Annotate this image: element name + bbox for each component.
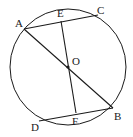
label-B: B [114,110,121,122]
center-point-O [66,65,69,68]
geometry-diagram: A E C O B F D [0,0,133,137]
label-O: O [72,55,80,67]
label-E: E [57,7,64,19]
label-D: D [31,121,39,133]
diagram-canvas: A E C O B F D [0,0,133,137]
label-F: F [72,115,78,127]
label-C: C [97,4,104,16]
label-A: A [15,17,23,29]
